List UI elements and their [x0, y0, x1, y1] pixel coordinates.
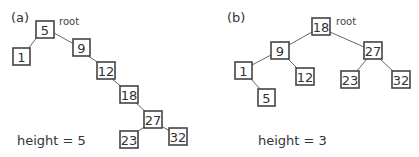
svg-text:18: 18 — [121, 88, 138, 103]
tree-node: 9 — [73, 39, 90, 56]
edge-27-23 — [356, 59, 367, 72]
tree-node: 5 — [36, 21, 54, 38]
edge-18-9 — [289, 32, 312, 45]
tree-node: 18 — [120, 86, 138, 103]
edge-5-9 — [54, 33, 74, 44]
tree-node: 27 — [144, 111, 162, 128]
panel-b-label: (b) — [227, 10, 245, 25]
svg-text:9: 9 — [276, 44, 284, 59]
edge-9-1 — [252, 55, 271, 65]
tree-node: 23 — [341, 71, 359, 88]
svg-text:12: 12 — [297, 70, 314, 85]
tree-node: 12 — [97, 62, 115, 79]
panel-b-edges — [251, 32, 394, 90]
tree-node: 9 — [271, 42, 289, 59]
svg-text:12: 12 — [98, 64, 115, 79]
panel-b-balanced-tree: (b) root 18 9 1 5 12 27 23 32 height = 3 — [227, 10, 410, 148]
tree-node: 1 — [235, 62, 252, 79]
svg-text:27: 27 — [365, 44, 382, 59]
tree-node: 32 — [392, 71, 410, 88]
svg-text:1: 1 — [17, 50, 25, 65]
tree-node: 1 — [13, 48, 30, 65]
svg-text:1: 1 — [239, 64, 247, 79]
svg-text:32: 32 — [393, 73, 410, 88]
svg-text:32: 32 — [170, 130, 187, 145]
edge-18-27 — [330, 32, 364, 47]
svg-text:23: 23 — [121, 133, 138, 148]
svg-text:23: 23 — [342, 73, 359, 88]
panel-a-label: (a) — [11, 10, 29, 25]
bst-comparison-diagram: (a) root 5 1 9 12 18 27 23 32 height = 5… — [0, 0, 419, 157]
panel-a-height-caption: height = 5 — [17, 133, 86, 148]
tree-node: 27 — [364, 42, 382, 59]
panel-b-height-caption: height = 3 — [258, 133, 327, 148]
tree-node: 5 — [258, 89, 275, 106]
panel-a-unbalanced-tree: (a) root 5 1 9 12 18 27 23 32 height = 5 — [11, 10, 187, 148]
svg-text:18: 18 — [313, 20, 330, 35]
svg-text:5: 5 — [41, 23, 49, 38]
tree-node: 12 — [296, 68, 314, 85]
svg-text:9: 9 — [77, 41, 85, 56]
svg-text:27: 27 — [145, 113, 162, 128]
svg-text:5: 5 — [262, 91, 270, 106]
tree-node: 23 — [120, 131, 138, 148]
tree-node: 18 — [312, 18, 330, 35]
panel-b-root-label: root — [336, 16, 356, 27]
edge-27-32 — [380, 59, 394, 72]
tree-node: 32 — [169, 128, 187, 145]
panel-a-root-label: root — [59, 16, 79, 27]
